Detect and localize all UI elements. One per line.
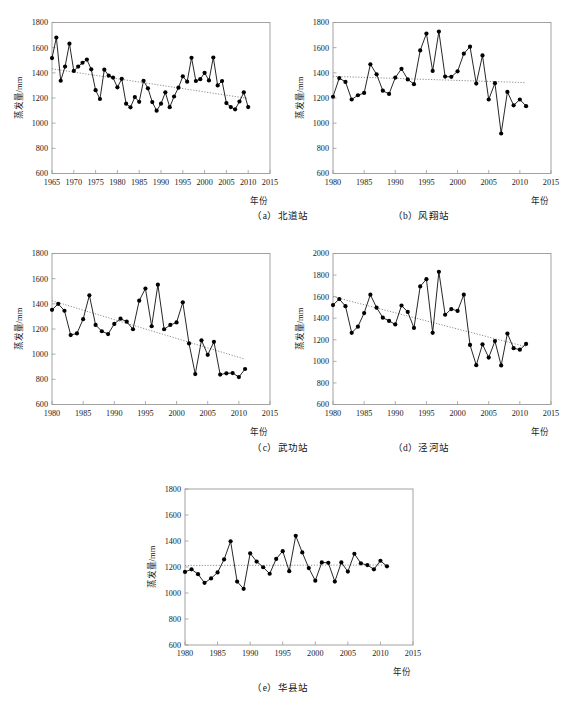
x-axis-label: 年份 [250, 195, 268, 206]
svg-text:1980: 1980 [325, 409, 341, 418]
svg-text:1600: 1600 [165, 511, 181, 520]
chart-svg-d: 6008001000120014001600180020001980198519… [281, 230, 561, 462]
chart-svg-c: 6008001000120014001600180019801985199019… [0, 230, 280, 462]
svg-text:1000: 1000 [313, 357, 329, 366]
svg-text:1600: 1600 [32, 275, 48, 284]
svg-text:1800: 1800 [313, 271, 329, 280]
svg-text:1800: 1800 [32, 249, 48, 258]
figure-container: 6008001000120014001600180019651970197519… [0, 0, 561, 703]
svg-text:2005: 2005 [481, 178, 497, 187]
x-axis-label: 年份 [393, 666, 411, 677]
svg-text:2005: 2005 [340, 649, 356, 658]
svg-text:1995: 1995 [275, 649, 291, 658]
plot-area-c: 6008001000120014001600180019801985199019… [0, 230, 280, 462]
svg-text:800: 800 [317, 379, 329, 388]
svg-text:1600: 1600 [32, 44, 48, 53]
svg-text:1980: 1980 [109, 178, 125, 187]
svg-text:2010: 2010 [240, 178, 256, 187]
x-axis-label: 年份 [531, 426, 549, 437]
y-axis-label: 蒸发量/mm [294, 76, 305, 119]
svg-text:1985: 1985 [209, 649, 225, 658]
svg-text:800: 800 [36, 375, 48, 384]
svg-text:1600: 1600 [313, 293, 329, 302]
svg-text:800: 800 [169, 615, 181, 624]
svg-text:1975: 1975 [87, 178, 103, 187]
svg-text:2005: 2005 [200, 409, 216, 418]
svg-text:2015: 2015 [262, 409, 278, 418]
chart-svg-a: 6008001000120014001600180019651970197519… [0, 0, 280, 230]
caption-d: （d）泾河站 [281, 440, 561, 454]
svg-text:1400: 1400 [313, 314, 329, 323]
svg-text:1985: 1985 [356, 409, 372, 418]
x-axis-label: 年份 [250, 426, 268, 437]
x-axis-label: 年份 [531, 195, 549, 206]
svg-text:1200: 1200 [313, 94, 329, 103]
svg-text:1800: 1800 [32, 18, 48, 27]
svg-text:1990: 1990 [242, 649, 258, 658]
svg-text:1000: 1000 [165, 589, 181, 598]
svg-text:2005: 2005 [481, 409, 497, 418]
svg-text:1200: 1200 [165, 563, 181, 572]
svg-text:1995: 1995 [418, 409, 434, 418]
plot-area-a: 6008001000120014001600180019651970197519… [0, 0, 280, 230]
svg-text:1400: 1400 [32, 300, 48, 309]
chart-panel-c: 6008001000120014001600180019801985199019… [0, 230, 280, 462]
svg-text:2015: 2015 [543, 178, 559, 187]
svg-text:1985: 1985 [356, 178, 372, 187]
plot-area-e: 6008001000120014001600180019801985199019… [133, 465, 423, 703]
svg-text:1980: 1980 [177, 649, 193, 658]
svg-text:1990: 1990 [387, 409, 403, 418]
svg-text:1990: 1990 [106, 409, 122, 418]
svg-text:2010: 2010 [512, 178, 528, 187]
chart-panel-a: 6008001000120014001600180019651970197519… [0, 0, 280, 230]
svg-text:1995: 1995 [175, 178, 191, 187]
svg-text:1800: 1800 [165, 485, 181, 494]
svg-text:1000: 1000 [32, 119, 48, 128]
plot-area-d: 6008001000120014001600180020001980198519… [281, 230, 561, 462]
svg-text:2000: 2000 [449, 409, 465, 418]
svg-text:1995: 1995 [137, 409, 153, 418]
svg-text:1985: 1985 [75, 409, 91, 418]
svg-text:1800: 1800 [313, 18, 329, 27]
svg-text:2000: 2000 [196, 178, 212, 187]
svg-text:1990: 1990 [387, 178, 403, 187]
chart-panel-d: 6008001000120014001600180020001980198519… [281, 230, 561, 462]
caption-e: （e）华县站 [0, 680, 561, 694]
svg-text:1970: 1970 [66, 178, 82, 187]
chart-panel-b: 6008001000120014001600180019801985199019… [281, 0, 561, 230]
svg-text:1200: 1200 [32, 325, 48, 334]
svg-text:1990: 1990 [153, 178, 169, 187]
svg-text:1980: 1980 [325, 178, 341, 187]
y-axis-label: 蒸发量/mm [146, 545, 157, 588]
svg-text:2000: 2000 [449, 178, 465, 187]
svg-text:2015: 2015 [262, 178, 278, 187]
chart-panel-e: 6008001000120014001600180019801985199019… [133, 465, 423, 703]
svg-text:800: 800 [36, 144, 48, 153]
svg-text:1995: 1995 [418, 178, 434, 187]
chart-svg-e: 6008001000120014001600180019801985199019… [133, 465, 423, 703]
svg-text:2000: 2000 [307, 649, 323, 658]
svg-text:1000: 1000 [32, 350, 48, 359]
y-axis-label: 蒸发量/mm [13, 76, 24, 119]
y-axis-label: 蒸发量/mm [294, 307, 305, 350]
svg-text:2015: 2015 [405, 649, 421, 658]
svg-text:1400: 1400 [32, 69, 48, 78]
svg-text:2005: 2005 [218, 178, 234, 187]
svg-text:2015: 2015 [543, 409, 559, 418]
caption-b: （b）风翔站 [281, 208, 561, 222]
chart-svg-b: 6008001000120014001600180019801985199019… [281, 0, 561, 230]
svg-text:2010: 2010 [512, 409, 528, 418]
svg-text:800: 800 [317, 144, 329, 153]
y-axis-label: 蒸发量/mm [13, 307, 24, 350]
svg-text:2010: 2010 [372, 649, 388, 658]
svg-text:1965: 1965 [44, 178, 60, 187]
svg-text:1200: 1200 [32, 94, 48, 103]
svg-text:1980: 1980 [44, 409, 60, 418]
svg-text:2010: 2010 [231, 409, 247, 418]
svg-text:2000: 2000 [168, 409, 184, 418]
svg-text:1600: 1600 [313, 44, 329, 53]
svg-text:1200: 1200 [313, 336, 329, 345]
svg-text:1985: 1985 [131, 178, 147, 187]
svg-text:2000: 2000 [313, 249, 329, 258]
svg-text:1000: 1000 [313, 119, 329, 128]
